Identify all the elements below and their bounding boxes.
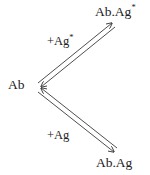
node-text-product-excited: Ab.Ag [95, 4, 131, 19]
node-text-product: Ab.Ag [96, 155, 132, 170]
node-label-antibody: Ab [8, 78, 25, 92]
lower-branch-forward-line [38, 92, 114, 152]
node-label-product: Ab.Ag [96, 156, 132, 170]
reaction-scheme-diagram: Ab.Ag* Ab Ab.Ag +Ag* +Ag [0, 0, 150, 175]
edge-text-reagent: +Ag [47, 128, 69, 142]
edge-label-reagent: +Ag [47, 129, 69, 142]
upper-branch-forward-line [38, 23, 112, 83]
superscript-asterisk-product-excited: * [131, 2, 135, 12]
node-text-antibody: Ab [8, 77, 25, 92]
node-label-product-excited: Ab.Ag* [95, 3, 136, 18]
superscript-asterisk-reagent-excited: * [69, 32, 73, 42]
edge-label-reagent-excited: +Ag* [47, 33, 74, 48]
edge-text-reagent-excited: +Ag [47, 34, 69, 48]
lower-branch-arrow [38, 88, 117, 152]
